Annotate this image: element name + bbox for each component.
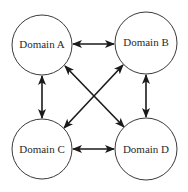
node-domain-d: Domain D xyxy=(115,118,177,180)
node-label: Domain D xyxy=(123,143,169,155)
node-label: Domain B xyxy=(123,36,169,48)
node-domain-b: Domain B xyxy=(115,12,177,74)
domain-diagram: Domain A Domain B Domain C Domain D xyxy=(0,0,188,192)
node-domain-a: Domain A xyxy=(12,15,72,75)
node-domain-c: Domain C xyxy=(12,119,72,179)
node-label: Domain C xyxy=(19,143,65,155)
node-label: Domain A xyxy=(19,38,65,50)
